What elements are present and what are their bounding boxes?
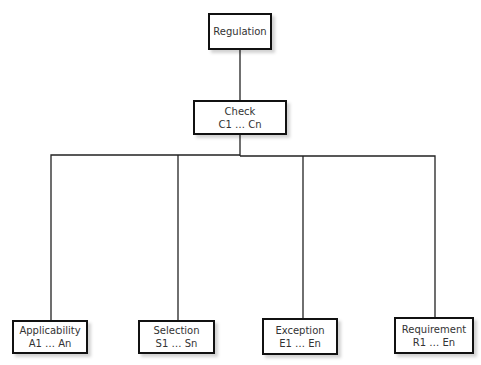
applicability-label: Applicability <box>19 324 80 337</box>
requirement-node: Requirement R1 … En <box>394 317 474 354</box>
applicability-range: A1 … An <box>29 337 72 350</box>
regulation-node: Regulation <box>208 13 272 50</box>
selection-range: S1 … Sn <box>156 337 198 350</box>
connector-lines <box>0 0 481 365</box>
exception-label: Exception <box>275 324 324 337</box>
regulation-label: Regulation <box>213 25 266 38</box>
check-node: Check C1 … Cn <box>193 100 287 135</box>
selection-node: Selection S1 … Sn <box>138 320 215 354</box>
check-label: Check <box>225 105 256 118</box>
exception-node: Exception E1 … En <box>262 318 338 355</box>
exception-range: E1 … En <box>279 337 321 350</box>
check-range: C1 … Cn <box>218 118 261 131</box>
selection-label: Selection <box>153 324 199 337</box>
requirement-label: Requirement <box>402 323 466 336</box>
requirement-range: R1 … En <box>413 336 455 349</box>
applicability-node: Applicability A1 … An <box>12 320 88 354</box>
